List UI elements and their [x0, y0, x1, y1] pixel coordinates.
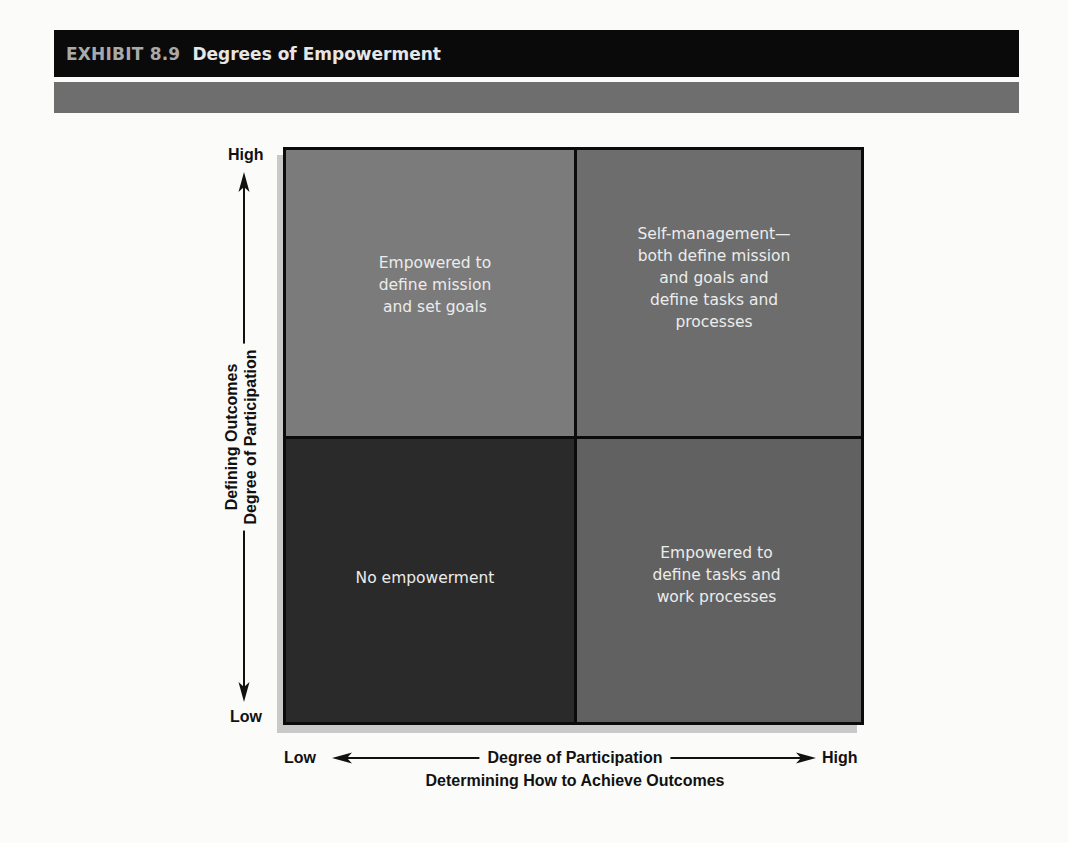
quadrant-bottom-left-text: No empowerment	[356, 567, 495, 589]
empowerment-matrix: Empowered to define mission and set goal…	[283, 147, 864, 725]
quadrant-bottom-right-text: Empowered to define tasks and work proce…	[652, 542, 780, 608]
exhibit-header: EXHIBIT 8.9 Degrees of Empowerment	[54, 30, 1019, 77]
header-sub-bar	[54, 82, 1019, 113]
quadrant-top-right-text: Self-management— both define mission and…	[637, 223, 790, 333]
x-axis-subtitle: Determining How to Achieve Outcomes	[425, 772, 724, 790]
quadrant-top-right: Self-management— both define mission and…	[577, 150, 861, 436]
y-axis-title: Defining Outcomes Degree of Participatio…	[222, 343, 260, 530]
exhibit-number: EXHIBIT 8.9	[66, 44, 180, 64]
y-axis-title-line2: Degree of Participation	[241, 349, 260, 524]
x-axis-low-label: Low	[284, 749, 316, 767]
exhibit-title: Degrees of Empowerment	[192, 44, 441, 64]
quadrant-top-left: Empowered to define mission and set goal…	[286, 150, 574, 436]
y-axis-high-label: High	[228, 146, 264, 164]
x-axis-title: Degree of Participation	[479, 749, 670, 767]
y-axis-low-label: Low	[230, 708, 262, 726]
y-axis-title-line1: Defining Outcomes	[222, 349, 241, 524]
quadrant-bottom-right: Empowered to define tasks and work proce…	[577, 439, 861, 722]
x-axis-high-label: High	[822, 749, 858, 767]
quadrant-top-left-text: Empowered to define mission and set goal…	[379, 252, 492, 318]
quadrant-bottom-left: No empowerment	[286, 439, 574, 722]
